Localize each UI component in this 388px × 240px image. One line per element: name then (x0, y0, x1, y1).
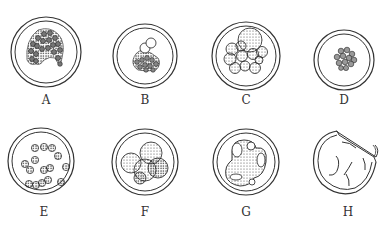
cell-cluster-d (334, 47, 357, 70)
label-g: G (241, 205, 251, 219)
diagram-canvas (0, 0, 388, 240)
cell-cluster-b (133, 50, 160, 72)
large-cell-b2 (146, 38, 156, 48)
panel-a (11, 17, 81, 87)
panel-h (314, 131, 378, 194)
cell-cluster-c (224, 28, 268, 74)
cell-cluster-a (27, 29, 64, 67)
scattered-cells-e (21, 143, 69, 188)
large-cells-f (121, 142, 168, 184)
panel-g (213, 129, 279, 195)
label-f: F (141, 205, 149, 219)
label-a: A (42, 93, 51, 107)
panel-c (212, 22, 280, 90)
panel-f (112, 129, 178, 195)
panel-d (314, 30, 374, 90)
label-h: H (343, 205, 353, 219)
ruptured-shell-inner (318, 135, 372, 189)
panel-b (113, 24, 177, 88)
label-c: C (241, 93, 250, 107)
label-d: D (339, 93, 349, 107)
ruptured-shell-outer (314, 131, 376, 194)
label-b: B (141, 93, 150, 107)
panel-e (8, 128, 74, 194)
label-e: E (40, 205, 49, 219)
